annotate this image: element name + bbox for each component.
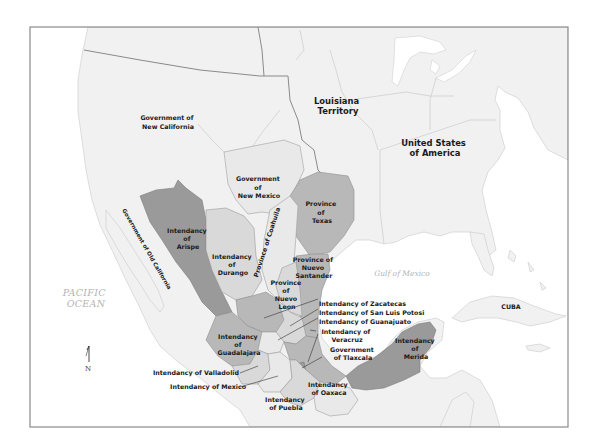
label-mexico: Intendancy of Mexico	[170, 383, 247, 391]
label-zacatecas: Intendancy of Zacatecas	[319, 300, 406, 308]
label-valladolid: Intendancy of Valladolid	[153, 369, 239, 377]
label-guanajuato: Intendancy of Guanajuato	[319, 318, 412, 326]
label-cuba: CUBA	[501, 303, 521, 310]
historical-map: Government of New California Louisiana T…	[0, 0, 597, 447]
label-gulf-of-mexico: Gulf of Mexico	[374, 269, 430, 278]
label-oaxaca: Intendancy of Oaxaca	[308, 381, 350, 396]
svg-text:N: N	[85, 365, 91, 373]
label-louisiana-territory: Louisiana Territory	[314, 96, 362, 116]
label-pacific-ocean: PACIFIC OCEAN	[62, 287, 109, 309]
label-san-luis-potosi: Intendancy of San Luis Potosi	[319, 309, 424, 317]
label-new-california: Government of New California	[140, 114, 195, 130]
label-tlaxcala: Government of Tlaxcala	[330, 346, 376, 361]
label-puebla: Intendancy of Puebla	[265, 396, 307, 411]
label-united-states: United States of America	[401, 138, 469, 158]
